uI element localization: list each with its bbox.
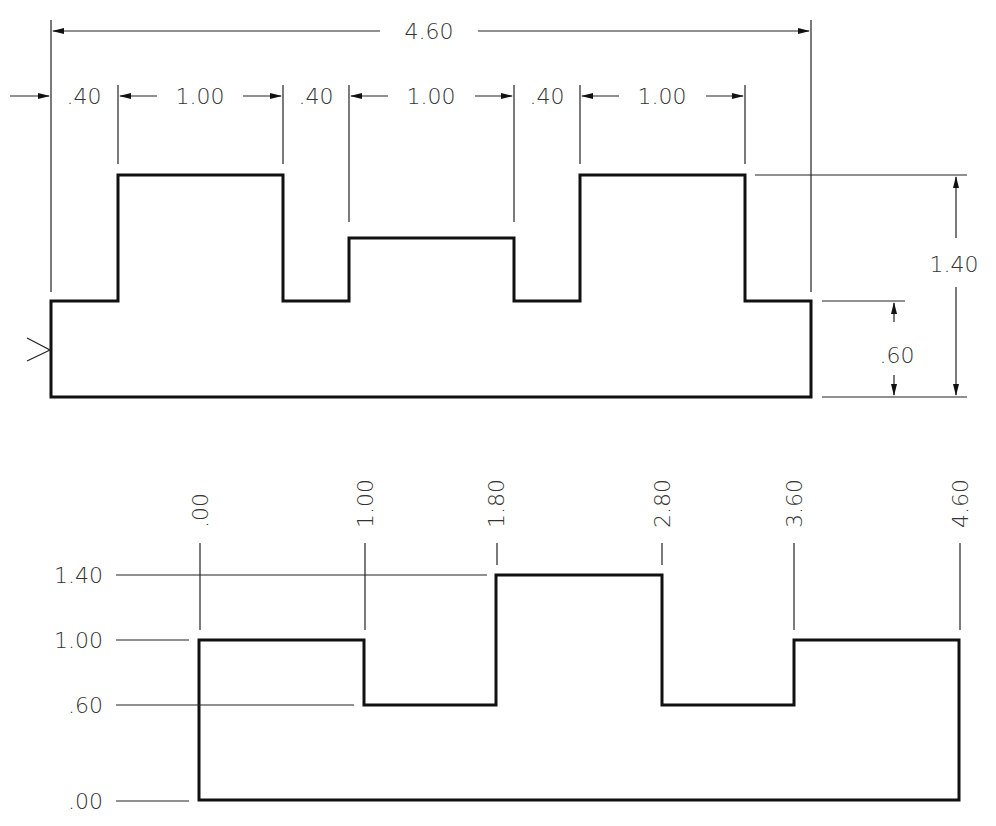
x-ordinate-2: 1.80 (484, 479, 509, 528)
top-extension-lines (51, 20, 967, 397)
ordinate-lines (116, 543, 960, 801)
x-ordinate-0: .00 (188, 493, 213, 528)
height-dimensions: 1.40 .60 (880, 177, 979, 395)
x-ordinate-3: 2.80 (650, 479, 675, 528)
height-base-label: .60 (880, 343, 915, 368)
y-ordinate-3: .00 (68, 789, 103, 814)
x-ordinate-labels: .00 1.00 1.80 2.80 3.60 4.60 (188, 479, 973, 528)
y-ordinate-labels: 1.40 1.00 .60 .00 (54, 563, 103, 814)
y-ordinate-1: 1.00 (54, 628, 103, 653)
x-ordinate-1: 1.00 (353, 479, 378, 528)
chain-dimensions: .40 1.00 .40 1.00 .40 1.00 (10, 84, 743, 109)
x-ordinate-4: 3.60 (782, 479, 807, 528)
chain-dim-2: 1.00 (176, 84, 225, 109)
top-profile (27, 175, 811, 397)
drawing-canvas: 4.60 .40 1.00 .40 1.00 .40 1.00 1.40 .60 (0, 0, 996, 826)
y-ordinate-0: 1.40 (54, 563, 103, 588)
x-ordinate-5: 4.60 (948, 479, 973, 528)
chain-dim-4: 1.00 (407, 84, 456, 109)
chain-dim-6: 1.00 (638, 84, 687, 109)
bottom-profile (199, 575, 959, 800)
chain-dim-1: .40 (67, 84, 102, 109)
overall-width-dimension: 4.60 (53, 19, 809, 44)
height-total-label: 1.40 (930, 252, 979, 277)
chain-dim-3: .40 (299, 84, 334, 109)
overall-width-label: 4.60 (405, 19, 454, 44)
chain-dim-5: .40 (530, 84, 565, 109)
y-ordinate-2: .60 (68, 693, 103, 718)
